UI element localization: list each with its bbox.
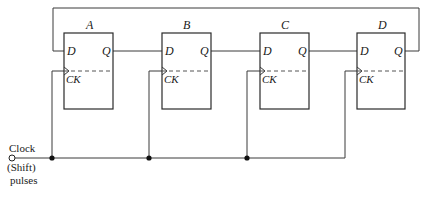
flip-flop-name: B [183,18,191,32]
q-output-label: Q [102,44,111,58]
shift-label: (Shift) [7,161,36,174]
flip-flop-name: D [377,18,387,32]
d-input-label: D [359,44,369,58]
d-input-label: D [66,44,76,58]
pulses-label: pulses [10,174,38,186]
flip-flop-name: C [281,18,290,32]
ck-input-label: CK [164,73,179,85]
flip-flop-d: D D Q CK [357,18,405,109]
d-input-label: D [164,44,174,58]
q-output-label: Q [394,44,403,58]
ck-input-label: CK [66,73,81,85]
junction-dot [146,155,151,160]
clock-wire-d [345,71,357,158]
q-output-label: Q [200,44,209,58]
clock-wire-a [52,71,64,158]
clock-label: Clock [9,142,36,154]
junction-dot [244,155,249,160]
flip-flop-a: A D Q CK [64,18,113,109]
clock-wire-c [247,71,260,158]
flip-flop-name: A [85,18,94,32]
junction-dot [49,155,54,160]
q-output-label: Q [298,44,307,58]
shift-register-diagram: A D Q CK B D Q CK C D Q CK D D Q CK Cloc… [0,0,426,198]
flip-flop-c: C D Q CK [260,18,309,109]
flip-flop-b: B D Q CK [162,18,211,109]
clock-wire-b [149,71,162,158]
ck-input-label: CK [262,73,277,85]
d-input-label: D [262,44,272,58]
ck-input-label: CK [359,73,374,85]
